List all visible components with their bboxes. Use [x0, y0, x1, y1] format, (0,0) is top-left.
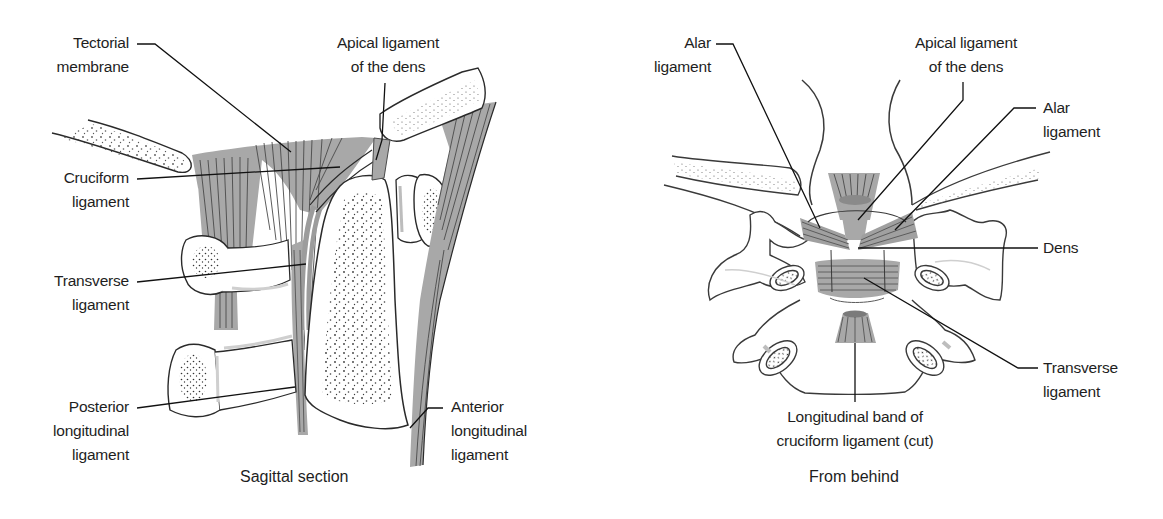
label-transverse-ligament-right: Transverse ligament [1043, 356, 1118, 404]
label-alar-ligament-right: Alar ligament [1043, 96, 1100, 144]
axis-spinous-process [168, 336, 296, 417]
label-transverse-ligament-left: Transverse ligament [54, 269, 129, 317]
atlas-left [708, 211, 808, 300]
label-apical-ligament-right: Apical ligament of the dens [903, 31, 1029, 79]
left-occipital-bone [664, 156, 801, 236]
caption-from-behind: From behind [809, 467, 899, 487]
caption-sagittal-section: Sagittal section [240, 467, 349, 487]
label-tectorial-membrane: Tectorial membrane [57, 31, 130, 79]
anatomy-figure: Tectorial membrane Apical ligament of th… [0, 0, 1163, 519]
label-dens: Dens [1043, 236, 1078, 260]
label-apical-ligament-left: Apical ligament of the dens [325, 31, 451, 79]
occipital-bone [52, 120, 191, 172]
atlas-right [911, 210, 1006, 300]
label-cruciform-ligament: Cruciform ligament [64, 166, 129, 214]
label-posterior-longitudinal-ligament: Posterior longitudinal ligament [53, 395, 129, 467]
right-occipital-bone [912, 152, 1050, 210]
label-anterior-longitudinal-ligament: Anterior longitudinal ligament [451, 395, 527, 467]
label-longitudinal-band: Longitudinal band of cruciform ligament … [762, 405, 948, 453]
label-alar-ligament-left: Alar ligament [654, 31, 711, 79]
